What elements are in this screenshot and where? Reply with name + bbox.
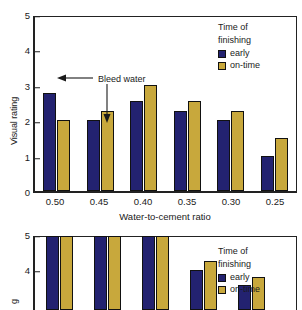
- bar-group: [94, 237, 121, 310]
- bar-early: [94, 236, 107, 310]
- legend-title-line2: finishing: [218, 259, 260, 270]
- y-axis-title: g: [9, 299, 19, 304]
- chart-panel-visual-rating: Visual rating 5 4 3 2 1 0: [0, 0, 302, 232]
- y-tick-label: 4: [25, 267, 30, 277]
- bar-group: [46, 237, 73, 310]
- bar-group: [142, 237, 169, 310]
- legend-swatch-icon-on-time: [218, 62, 226, 70]
- legend-item-early: early: [218, 48, 260, 59]
- bar-on-time: [108, 236, 121, 310]
- x-tick-label: 0.35: [165, 196, 209, 207]
- x-tick-label: 0.40: [121, 196, 165, 207]
- y-tick-label: 1: [25, 153, 30, 163]
- legend-title-line1: Time of: [218, 246, 260, 257]
- legend-swatch-icon-on-time: [218, 286, 226, 294]
- legend: Time of finishing early on-time: [218, 246, 260, 295]
- x-tick-label: 0.45: [77, 196, 121, 207]
- bar-on-time: [156, 236, 169, 310]
- legend-label-early: early: [230, 48, 250, 59]
- x-tick-label: 0.25: [253, 196, 297, 207]
- x-axis-tick-labels: 0.50 0.45 0.40 0.35 0.30 0.25: [33, 196, 297, 207]
- y-tick-label: 3: [25, 82, 30, 92]
- legend: Time of finishing early on-time: [218, 22, 260, 71]
- bar-group: [190, 237, 217, 310]
- y-tick-label: 0: [25, 188, 30, 198]
- legend-title-line2: finishing: [218, 35, 260, 46]
- x-axis-title: Water-to-cement ratio: [33, 211, 297, 222]
- y-tick-label: 2: [25, 117, 30, 127]
- bar-on-time: [204, 261, 217, 310]
- legend-item-early: early: [218, 272, 260, 283]
- y-tick-label: 5: [25, 231, 30, 241]
- x-tick-label: 0.50: [33, 196, 77, 207]
- y-tick-label: 4: [25, 47, 30, 57]
- legend-item-on-time: on-time: [218, 284, 260, 295]
- chart-panel-second-partial: g 5 4: [0, 232, 302, 306]
- y-axis-title: Visual rating: [9, 97, 19, 145]
- bar-on-time: [60, 236, 73, 310]
- bar-early: [46, 236, 59, 310]
- legend-title-line1: Time of: [218, 22, 260, 33]
- legend-label-on-time: on-time: [230, 60, 260, 71]
- legend-item-on-time: on-time: [218, 60, 260, 71]
- legend-swatch-icon-early: [218, 50, 226, 58]
- y-tick-label: 5: [25, 11, 30, 21]
- bar-early: [190, 270, 203, 310]
- legend-label-on-time: on-time: [230, 284, 260, 295]
- bar-early: [142, 236, 155, 310]
- bleed-water-label: Bleed water: [98, 74, 146, 84]
- legend-label-early: early: [230, 272, 250, 283]
- x-tick-label: 0.30: [209, 196, 253, 207]
- legend-swatch-icon-early: [218, 274, 226, 282]
